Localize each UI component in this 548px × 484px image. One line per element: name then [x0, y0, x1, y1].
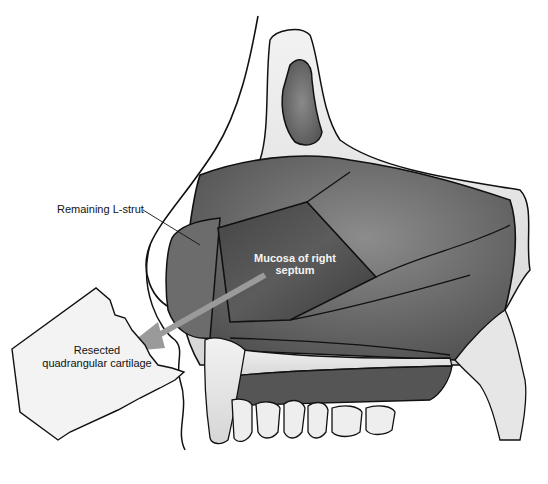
label-remaining-l-strut: Remaining L-strut [57, 203, 144, 216]
teeth [232, 399, 395, 441]
l-strut-cartilage [166, 218, 220, 338]
label-mucosa-right-septum: Mucosa of right septum [240, 252, 350, 276]
anatomy-illustration [0, 0, 548, 484]
label-resected-cartilage: Resected quadrangular cartilage [42, 344, 152, 370]
